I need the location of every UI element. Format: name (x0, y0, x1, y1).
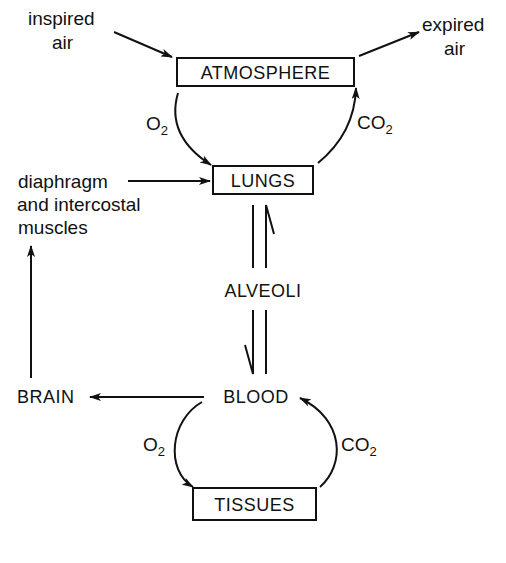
tissues-label: TISSUES (214, 495, 295, 515)
inspired-air-label-2: air (52, 32, 74, 53)
co2-to-atmosphere-arrow (318, 88, 356, 163)
expired-air-label-2: air (444, 38, 466, 59)
blood-label: BLOOD (223, 387, 289, 407)
alveoli-up-half-arrow (266, 205, 274, 268)
respiration-diagram: inspired air expired air ATMOSPHERE O2 C… (0, 0, 506, 563)
muscles-label-2: and intercostal (17, 194, 141, 215)
co2-top-label: CO2 (357, 112, 393, 137)
muscles-label-1: diaphragm (18, 171, 108, 192)
o2-to-lungs-arrow (175, 93, 211, 165)
brain-label: BRAIN (17, 387, 75, 407)
blood-down-half-arrow (245, 310, 253, 374)
co2-bottom-label: CO2 (341, 434, 377, 459)
muscles-label-3: muscles (18, 217, 88, 238)
inspired-air-label: inspired (28, 8, 95, 29)
atmosphere-label: ATMOSPHERE (201, 63, 331, 83)
o2-bottom-label: O2 (143, 434, 165, 459)
expired-air-arrow (359, 32, 419, 56)
o2-to-tissues-arrow (175, 402, 202, 487)
alveoli-label: ALVEOLI (224, 281, 301, 301)
expired-air-label: expired (422, 14, 484, 35)
co2-to-blood-arrow (300, 398, 337, 487)
lungs-label: LUNGS (231, 171, 296, 191)
o2-top-label: O2 (146, 113, 168, 138)
inspired-air-arrow (114, 32, 172, 57)
